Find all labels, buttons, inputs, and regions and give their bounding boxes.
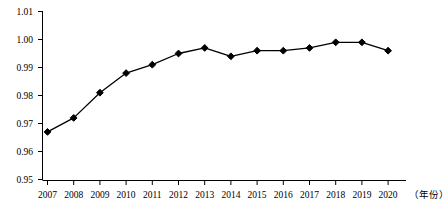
data-point-marker xyxy=(385,47,392,54)
data-point-marker xyxy=(175,50,182,57)
data-point-marker xyxy=(306,45,313,52)
data-point-markers xyxy=(44,39,391,135)
chart-plot-area xyxy=(0,0,448,211)
data-point-marker xyxy=(254,47,261,54)
x-axis-tick-label: 2011 xyxy=(143,190,162,200)
data-point-marker xyxy=(44,129,51,136)
data-point-marker xyxy=(359,39,366,46)
x-axis-tick-label: 2013 xyxy=(195,190,214,200)
x-axis-ticks xyxy=(48,181,389,186)
x-axis-tick-label: 2008 xyxy=(64,190,83,200)
line-chart: 0.950.960.970.980.991.001.01 20072008200… xyxy=(0,0,448,211)
x-axis-tick-label: 2016 xyxy=(274,190,293,200)
y-axis-tick-label: 0.98 xyxy=(0,91,33,101)
data-point-marker xyxy=(201,45,208,52)
x-axis-tick-label: 2020 xyxy=(379,190,398,200)
data-point-marker xyxy=(228,53,235,60)
x-axis-tick-label: 2015 xyxy=(248,190,267,200)
data-series-line xyxy=(48,42,389,132)
y-axis-tick-label: 0.99 xyxy=(0,63,33,73)
x-axis-tick-label: 2017 xyxy=(300,190,319,200)
y-axis-tick-label: 1.01 xyxy=(0,7,33,17)
data-point-marker xyxy=(149,61,156,68)
x-axis-tick-label: 2014 xyxy=(221,190,240,200)
data-point-marker xyxy=(332,39,339,46)
x-axis-tick-label: 2019 xyxy=(352,190,371,200)
y-axis-tick-label: 0.96 xyxy=(0,147,33,157)
data-point-marker xyxy=(280,47,287,54)
x-axis-tick-label: 2007 xyxy=(38,190,57,200)
x-axis-title: （年份） xyxy=(409,190,448,200)
y-axis-tick-label: 0.97 xyxy=(0,119,33,129)
x-axis-tick-label: 2010 xyxy=(117,190,136,200)
x-axis-tick-label: 2009 xyxy=(90,190,109,200)
y-axis-tick-label: 1.00 xyxy=(0,35,33,45)
x-axis-tick-label: 2018 xyxy=(326,190,345,200)
y-axis-ticks xyxy=(38,12,43,180)
x-axis-tick-label: 2012 xyxy=(169,190,188,200)
y-axis-tick-label: 0.95 xyxy=(0,175,33,185)
